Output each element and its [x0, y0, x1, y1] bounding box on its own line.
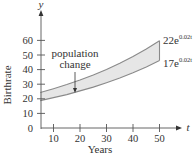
y-axis-variable: y — [38, 0, 44, 10]
y-tick-label: 40 — [23, 64, 34, 75]
y-axis-ticks: 0102030405060 — [23, 35, 46, 134]
y-tick-label: 20 — [23, 93, 34, 104]
annotation-line2: change — [59, 58, 90, 70]
y-tick-label: 60 — [23, 35, 34, 46]
x-tick-label: 40 — [128, 133, 139, 144]
top-curve-label: 22e0.02t — [163, 33, 192, 46]
y-tick-label: 50 — [23, 50, 34, 61]
y-tick-label: 0 — [28, 123, 33, 134]
x-tick-label: 50 — [154, 133, 165, 144]
x-tick-label: 10 — [48, 133, 59, 144]
x-axis-arrow-icon — [176, 126, 182, 131]
bottom-curve-label: 17e0.02t — [163, 56, 192, 69]
y-axis-arrow-icon — [39, 10, 44, 16]
x-axis-ticks: 1020304050 — [48, 124, 165, 144]
x-axis-variable: t — [186, 121, 190, 133]
bottom-curve-label-main: 17e — [163, 57, 179, 69]
x-axis-title: Years — [88, 143, 113, 155]
y-axis-title: Birthrate — [1, 65, 13, 104]
y-tick-label: 10 — [23, 108, 34, 119]
y-tick-label: 30 — [23, 79, 34, 90]
birthrate-chart: y t 0102030405060 1020304050 Birthrate Y… — [0, 0, 196, 161]
x-tick-label: 20 — [75, 133, 86, 144]
bottom-curve-label-exponent: 0.02t — [179, 56, 192, 63]
top-curve-label-exponent: 0.02t — [179, 33, 192, 40]
top-curve-label-main: 22e — [163, 34, 179, 46]
